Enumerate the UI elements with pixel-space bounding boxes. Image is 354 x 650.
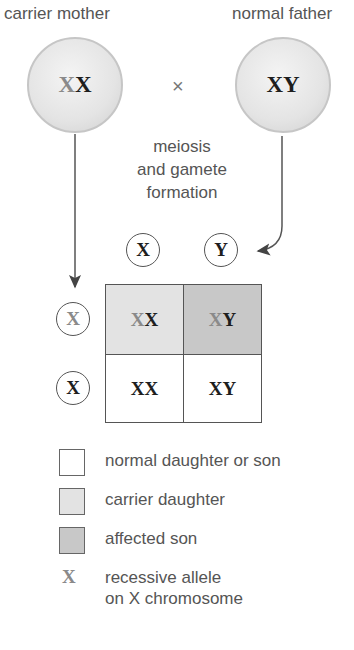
father-gamete-x: X xyxy=(126,233,160,267)
legend-recessive-allele-symbol: X xyxy=(62,566,76,588)
cell-affected-son: XY xyxy=(184,285,261,355)
cell-normal-daughter: XX xyxy=(106,355,184,422)
mother-gamete-normal-x: X xyxy=(56,371,90,405)
father-gamete-y: Y xyxy=(204,233,238,267)
punnett-square: XX XY XX XY xyxy=(105,284,262,423)
cell-normal-son: XY xyxy=(184,355,261,422)
legend-label-affected: affected son xyxy=(105,529,197,549)
legend-label-normal: normal daughter or son xyxy=(105,451,281,471)
legend-swatch-carrier xyxy=(59,488,85,515)
legend-label-carrier: carrier daughter xyxy=(105,490,225,510)
mother-gamete-recessive-x: X xyxy=(56,302,90,336)
legend-swatch-normal xyxy=(59,449,85,476)
legend-swatch-affected xyxy=(59,527,85,554)
legend-allele-line-1: recessive allele xyxy=(105,567,243,588)
father-gamete-arrow xyxy=(258,136,282,251)
legend-recessive-allele-label: recessive allele on X chromosome xyxy=(105,567,243,609)
cell-carrier-daughter: XX xyxy=(106,285,184,355)
legend-allele-line-2: on X chromosome xyxy=(105,588,243,609)
